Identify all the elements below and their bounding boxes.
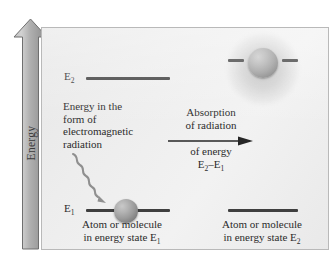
- caption-left-line-2-text: in energy state E: [83, 231, 156, 243]
- level-line-upper-right-left-segment: [228, 59, 244, 62]
- process-label-line-1: Absorption: [156, 106, 266, 119]
- caption-right-line-2-sub: 2: [297, 237, 301, 246]
- atom-sphere-excited-state: [248, 48, 278, 78]
- caption-left-line-2-sub: 1: [157, 237, 161, 246]
- caption-right-line-2-text: in energy state E: [223, 231, 296, 243]
- level-label-e2-sub: 2: [71, 76, 75, 85]
- process-label-top: Absorption of radiation: [156, 106, 266, 132]
- wavy-arrow-icon: [70, 152, 130, 208]
- photon-wavy-arrow: [70, 152, 130, 212]
- level-line-upper-right-right-segment: [282, 59, 298, 62]
- caption-left: Atom or molecule in energy state E1: [54, 218, 190, 248]
- level-label-e2-text: E: [64, 70, 71, 82]
- process-label-line-4: E2–E1: [156, 158, 266, 176]
- caption-right: Atom or molecule in energy state E2: [194, 218, 330, 248]
- diagram-panel: E2 E1 Energy in the form of electromagne…: [41, 27, 329, 250]
- process-energy-e1-sub: 1: [220, 164, 224, 173]
- process-label-line-3: of energy: [156, 145, 266, 158]
- process-label-bottom: of energy E2–E1: [156, 145, 266, 176]
- caption-left-line-1: Atom or molecule: [54, 218, 190, 231]
- energy-absorption-diagram: Energy E2 E1 Energy in the form of elect…: [0, 0, 334, 264]
- caption-right-line-1: Atom or molecule: [194, 218, 330, 231]
- caption-left-line-2: in energy state E1: [54, 231, 190, 248]
- level-label-e2: E2: [64, 70, 74, 85]
- process-energy-e2: E: [198, 158, 205, 170]
- caption-right-line-2: in energy state E2: [194, 231, 330, 248]
- level-line-lower-right: [228, 209, 298, 212]
- level-line-upper-left: [86, 77, 170, 80]
- process-label-line-2: of radiation: [156, 119, 266, 132]
